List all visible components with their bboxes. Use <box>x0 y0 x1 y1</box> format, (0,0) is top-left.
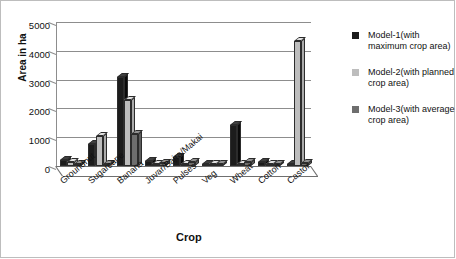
bar-group <box>230 22 258 166</box>
legend-item[interactable]: Model-3(with average crop area) <box>352 104 456 126</box>
chart-figure: Area in ha 010002000300040005000 Groundn… <box>0 0 456 259</box>
bar-group <box>287 22 315 166</box>
y-tick-label: 0 <box>8 165 50 175</box>
chart-legend: Model-1(with maximum crop area)Model-2(w… <box>352 30 456 141</box>
legend-swatch <box>352 69 359 76</box>
bar-group <box>145 22 173 166</box>
y-tick-label: 1000 <box>8 136 50 146</box>
legend-label: Model-2(with planned crop area) <box>368 67 456 89</box>
legend-item[interactable]: Model-1(with maximum crop area) <box>352 30 456 52</box>
legend-item[interactable]: Model-2(with planned crop area) <box>352 67 456 89</box>
bar <box>294 41 301 166</box>
bar-group <box>60 22 88 166</box>
bar-group <box>88 22 116 166</box>
legend-swatch <box>352 106 359 113</box>
bar <box>96 136 103 166</box>
bar-group <box>117 22 145 166</box>
y-tick-label: 3000 <box>8 79 50 89</box>
bar <box>230 125 237 166</box>
y-tick-label: 4000 <box>8 50 50 60</box>
legend-swatch <box>352 32 359 39</box>
y-tick-label: 5000 <box>8 21 50 31</box>
bar-group <box>258 22 286 166</box>
legend-label: Model-3(with average crop area) <box>368 104 456 126</box>
y-tick-label: 2000 <box>8 107 50 117</box>
x-axis-title: Crop <box>176 231 202 243</box>
legend-label: Model-1(with maximum crop area) <box>368 30 456 52</box>
bar-group <box>202 22 230 166</box>
